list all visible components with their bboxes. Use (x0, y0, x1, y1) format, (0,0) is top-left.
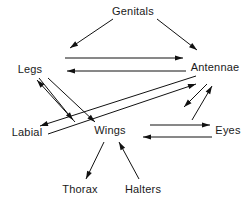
edge-antennae-legs (67, 68, 186, 73)
arrow-head-icon (202, 122, 210, 127)
edge-wings-thorax (86, 142, 104, 179)
node-label-eyes: Eyes (215, 124, 241, 136)
arrow-head-icon (206, 86, 212, 94)
edge-eyes-wings (143, 134, 212, 139)
edge-antennae-labial-a (40, 76, 196, 126)
edge-line (40, 76, 196, 126)
node-label-antennae: Antennae (191, 61, 240, 73)
node-label-halters: Halters (125, 183, 162, 195)
node-label-thorax: Thorax (62, 183, 98, 195)
arrow-head-icon (188, 84, 196, 89)
node-label-legs: Legs (18, 63, 43, 75)
edge-line (37, 80, 75, 122)
diagram-root: GenitalsLegsAntennaeLabialWingsEyesThora… (0, 0, 252, 207)
edge-genitals-antennae (157, 19, 197, 50)
edge-halters-wings (119, 142, 139, 179)
edges-layer (37, 19, 212, 179)
arrow-head-icon (67, 68, 75, 73)
arrow-head-icon (119, 142, 125, 150)
arrow-head-icon (143, 134, 151, 139)
node-label-wings: Wings (94, 124, 126, 136)
arrow-head-icon (70, 41, 78, 48)
node-label-labial: Labial (12, 126, 43, 138)
arrow-head-icon (175, 55, 183, 60)
edge-wings-eyes (150, 122, 210, 127)
nodes-layer: GenitalsLegsAntennaeLabialWingsEyesThora… (12, 5, 241, 195)
edge-legs-antennae (65, 55, 183, 60)
edge-eyes-antennae (192, 86, 212, 120)
arrow-head-icon (189, 43, 197, 50)
node-label-genitals: Genitals (112, 5, 154, 17)
edge-genitals-legs (70, 19, 113, 48)
arrow-head-icon (86, 171, 92, 179)
edge-wings-legs (37, 80, 75, 122)
edge-antennae-eyes (184, 84, 207, 107)
homeotic-transformation-diagram: GenitalsLegsAntennaeLabialWingsEyesThora… (0, 0, 252, 207)
